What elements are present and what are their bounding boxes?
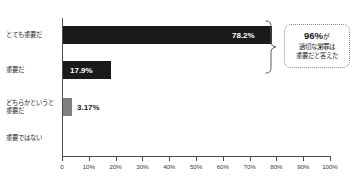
callout-line-3: 重要だと答えた (296, 51, 338, 61)
x-axis-tick-label: 70% (235, 163, 265, 170)
category-label-juuyou-dewanai: 重要ではない (6, 134, 62, 142)
category-label-dochiraka-juuyou: どちらかというと 重要だ (6, 99, 62, 115)
x-axis-tick (330, 157, 331, 161)
x-axis-tick-label: 30% (127, 163, 157, 170)
bar-dochiraka-juuyou (63, 98, 72, 116)
x-axis-tick-label: 20% (101, 163, 131, 170)
bar-value-dochiraka-juuyou: 3.17% (77, 103, 100, 112)
category-label-line: どちらかというと (6, 99, 62, 107)
x-axis-tick-label: 100% (315, 163, 345, 170)
x-axis-tick (276, 157, 277, 161)
x-axis-tick (116, 157, 117, 161)
bar-value-totemo-juuyou: 78.2% (232, 31, 255, 40)
bar-chart: 0 10% 20% 30% 40% 50% 60% 70% 80% 90% 10… (0, 0, 356, 190)
x-axis-tick (169, 157, 170, 161)
curly-brace-icon (262, 20, 282, 74)
x-axis-tick (196, 157, 197, 161)
x-axis-tick (142, 157, 143, 161)
category-label-line: 重要だ (6, 66, 62, 74)
category-label-line: 重要ではない (6, 134, 62, 142)
callout-percent: 96% (304, 30, 323, 41)
x-axis-tick-label: 0 (47, 163, 77, 170)
x-axis-tick (303, 157, 304, 161)
x-axis-tick-label: 10% (74, 163, 104, 170)
category-label-line: とても重要だ (6, 31, 62, 39)
callout-particle: が (323, 33, 330, 40)
category-label-totemo-juuyou: とても重要だ (6, 31, 62, 39)
x-axis-tick-label: 80% (261, 163, 291, 170)
bar-value-juuyou: 17.9% (70, 66, 93, 75)
x-axis-tick-label: 40% (154, 163, 184, 170)
category-label-line: 重要だ (6, 107, 62, 115)
x-axis-tick (223, 157, 224, 161)
x-axis-tick (89, 157, 90, 161)
x-axis-tick-label: 50% (181, 163, 211, 170)
x-axis-tick (62, 157, 63, 161)
x-axis-tick (250, 157, 251, 161)
x-axis-tick-label: 90% (288, 163, 318, 170)
callout-line-2: 適切な謝罪は (299, 42, 335, 52)
callout-box: 96%が 適切な謝罪は 重要だと答えた (284, 24, 350, 68)
category-label-juuyou: 重要だ (6, 66, 62, 74)
callout-headline: 96%が (304, 31, 330, 42)
x-axis-tick-label: 60% (208, 163, 238, 170)
